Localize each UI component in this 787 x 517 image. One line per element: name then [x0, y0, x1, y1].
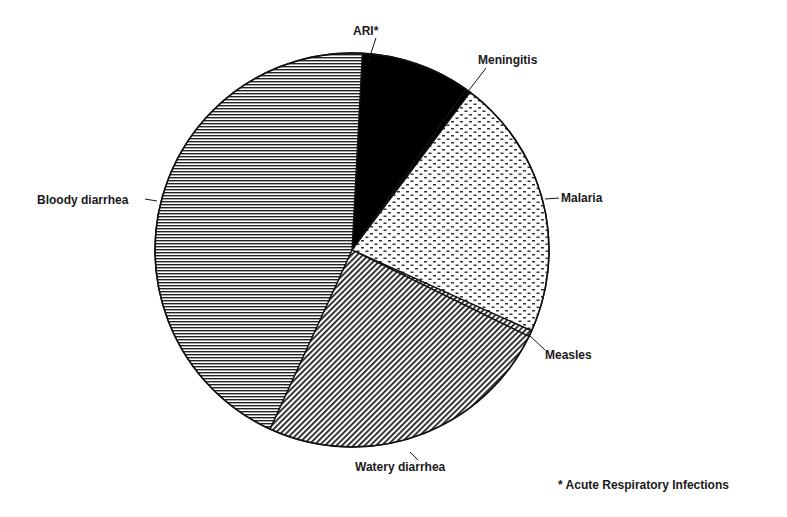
pie-chart: ARI* Meningitis Malaria Measles Watery d…	[0, 0, 787, 517]
leader-line	[545, 198, 559, 199]
leader-line	[528, 334, 545, 350]
footnote: * Acute Respiratory Infections	[558, 478, 729, 492]
leader-line	[145, 199, 157, 201]
label-watery-diarrhea: Watery diarrhea	[355, 460, 446, 474]
label-measles: Measles	[545, 348, 592, 362]
label-meningitis: Meningitis	[478, 53, 538, 67]
label-bloody-diarrhea: Bloody diarrhea	[37, 193, 129, 207]
leader-line	[410, 452, 418, 460]
label-ari: ARI*	[353, 24, 379, 38]
leader-line	[466, 68, 486, 94]
label-malaria: Malaria	[561, 191, 603, 205]
pie-slices	[155, 53, 549, 447]
